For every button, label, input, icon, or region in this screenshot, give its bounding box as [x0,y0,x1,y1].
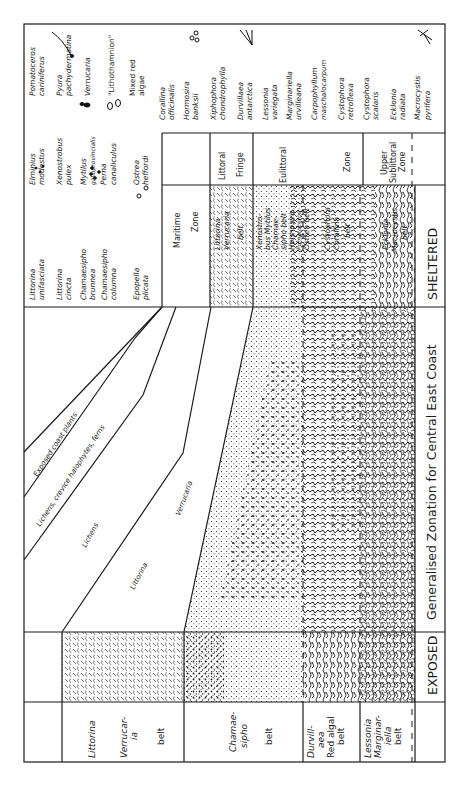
sheltered-belt-4-l3: belt [400,225,409,240]
maritime-zone-1: Maritime [173,213,182,248]
exposed-belt-2-l1: Chamae- [228,711,238,752]
zone-label-lichens: Lichens [81,521,101,548]
legend-corallina: Corallina [158,86,167,120]
zone-label-verrucaria: Verrucaria [174,480,194,517]
sheltered-belt-2-l6: Pomatoceros [295,211,302,250]
ostrea-icon [137,186,148,198]
legend-text: algae [137,75,146,96]
zonation-diagram: Generalised Zonation for Central East Co… [0,0,465,796]
legend-text: variegata [270,84,279,120]
legend-mytilus: Mytilus [79,158,88,185]
perna-icon [108,100,121,110]
legend-text: retroflexa [346,83,355,120]
hormosira-icon [190,31,199,42]
legend-text: cincta [64,277,73,300]
exposed-label: EXPOSED [425,636,440,695]
legend-text: brunnea [88,268,97,300]
exposed-belt-4-l2: Marginar- [373,715,383,758]
legend-cystophora-retroflexa: Cystophora [337,77,346,120]
sheltered-belt-3-l1: Cystophora [323,207,332,250]
maritime-zone-2: Zone [191,212,200,232]
sheltered-belt-2-l7: Ostrea belt [302,207,311,250]
legend-text: unifasciata [37,259,46,300]
legend-algae: Corallina officinalis Hormosira banksii … [158,60,432,121]
legend-pomatoceros: Pomatoceros [28,47,37,96]
legend-cystophora-scalaris: Cystophora [362,77,371,120]
exposed-belt-4-l4: belt [393,727,403,745]
legend-mixed-red-algae: Mixed red [128,59,137,96]
upper-sublittoral-2: Sublittoral [389,142,398,183]
sheltered-belt-1-l2: Verrucaria [222,211,231,250]
exposed-belt-4-l1: Lessonia [363,719,373,758]
upper-sublittoral-1: Upper [380,150,389,175]
legend-pyura: Pyura [55,74,64,96]
legend-text: pachydermatina [64,34,73,97]
legend-littorina-unifasciata: Littorina [28,268,37,300]
sheltered-label: SHELTERED [425,228,440,300]
sheltered-belt-4-l1: Ecklonia [381,218,390,250]
exposed-belt-4-l3: iella [383,726,393,745]
legend-lithothamnion: "Lithothamnion" [107,35,116,96]
legend-chamaesipho-columna: Chamaesipho [100,248,109,300]
sheltered-belt-1-l3: belt [236,225,245,240]
legend-text: radiata [398,93,407,120]
sheltered-belt-3-l3: belt [343,223,352,238]
mytilus-icon [80,103,90,108]
legend-text: maschalocarpum [320,60,328,120]
littoral-fringe-1: Littoral [218,152,227,180]
legend-text: columna [109,267,118,300]
sheltered-belt-4-l2: Macrocystis [390,208,399,252]
legend-text: pulex [64,164,73,186]
upper-sublittoral-3: Zone [398,152,407,172]
littoral-fringe-2: Fringe [236,152,245,177]
legend-chamaesipho-brunnea: Chamaesipho [79,248,88,300]
exposed-belt-3-l1: Durvill- [306,726,316,758]
exposed-belt-1-l1: Littorina [87,721,97,759]
legend-ecklonia: Ecklonia [389,88,398,120]
sheltered-belt-3-l2: Corallina [332,216,341,250]
legend-text: heffordi [141,155,150,185]
legend-xenostrobus-pulex: Xenostrobus [55,138,64,186]
legend-text: plicata [141,274,150,301]
legend-animals: Littorina unifasciata Littorina cincta C… [28,34,150,301]
macrocystis-icon [418,30,432,44]
eulittoral-1: Eulittoral [279,147,288,183]
legend-ostrea-heffordi: Ostrea [132,160,141,185]
legend-verrucaria: Verrucaria [83,57,92,96]
zonation-textures [62,185,415,702]
figure-title: Generalised Zonation for Central East Co… [424,344,439,620]
legend-macrocystis: Macrocystis [413,76,422,120]
legend-lessonia: Lessonia [261,87,270,120]
legend-text: cariniferus [37,56,46,96]
legend-marginariella: Marginariella [285,71,294,120]
legend-text: pyrifera [423,90,432,121]
legend-carpophyllum: Carpophyllum [310,68,319,120]
zone-label-littorina: Littorina [129,561,150,591]
legend-text: banksii [191,93,200,120]
exposed-belt-1-l2: Verrucar- [119,717,129,758]
legend-text: urvilleana [294,83,303,120]
legend-text: chondrophylla [218,66,227,120]
legend-hormosira: Hormosira [182,81,191,120]
eulittoral-2: Zone [343,152,352,172]
exposed-belt-3-l3: Red algal [326,716,336,758]
exposed-belts: Littorina Verrucar- ia belt Chamae- siph… [87,711,403,758]
legend-durvillaea: Durvillaea [236,81,245,120]
legend-littorina-cincta: Littorina [55,268,64,300]
exposed-belt-3-l2: aea [316,731,326,748]
legend-perna-canaliculus: Perna [99,163,108,185]
legend-text: scalaris [371,92,380,120]
legend-epopella-plicata: Epopella [132,267,141,300]
exposed-belt-3-l4: belt [336,727,346,745]
zone-label-lichens-crevice: Lichens, crevice halophytes, ferns [35,423,107,528]
exposed-belt-2-l2: sipho [239,723,249,748]
legend-xiphophora: Xiphophora [209,76,218,121]
exposed-belt-1-l4: belt [156,727,166,745]
exposed-belt-1-l3: ia [129,732,139,740]
exposed-belt-2-l3: belt [264,727,274,745]
sheltered-belt-1-l1: Littorina [213,218,222,250]
legend-text: antarctica [245,82,254,120]
legend-text: modestus [37,148,46,185]
legend-text: officinalis [167,84,176,120]
durvillaea-icon [240,30,252,45]
